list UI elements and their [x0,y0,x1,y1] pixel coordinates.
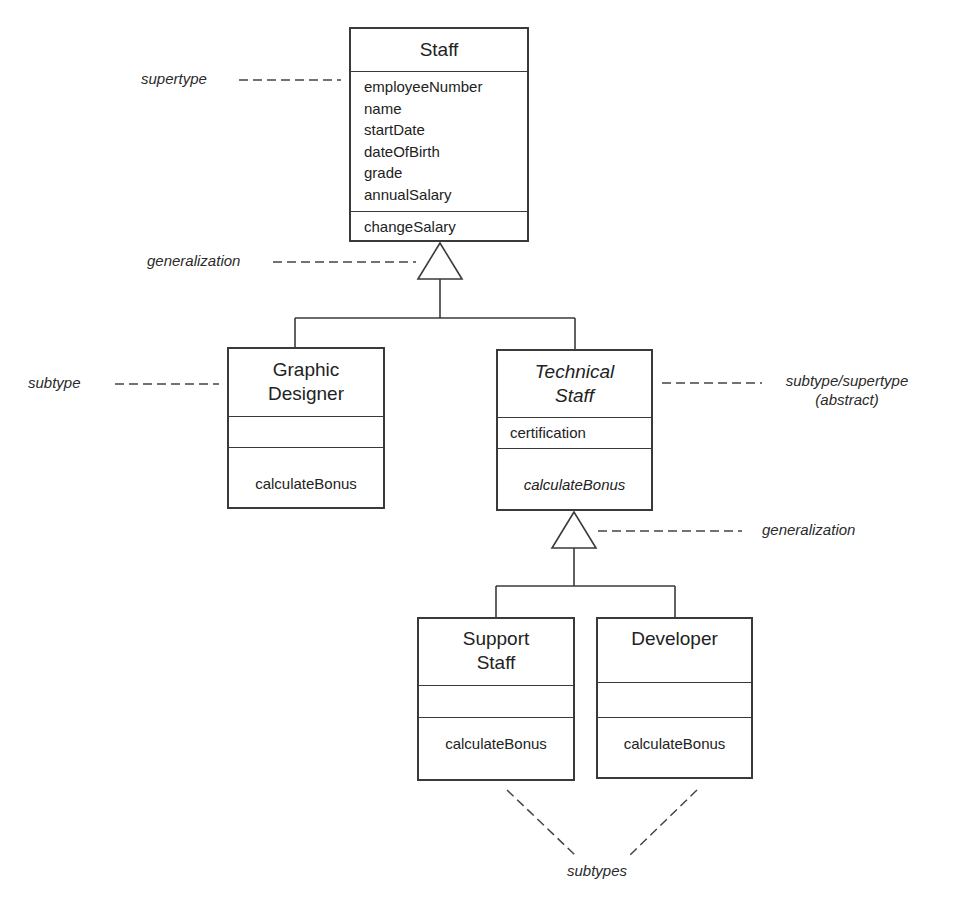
operation: calculateBonus [498,475,651,495]
class-support-staff: Support Staff calculateBonus [417,617,575,781]
class-staff-attributes: employeeNumber name startDate dateOfBirt… [351,71,527,211]
class-graphic-designer-name-compartment: Graphic Designer [229,349,383,416]
generalization-triangle-top [418,243,462,279]
attribute: annualSalary [351,184,527,206]
class-name: Developer [598,627,751,651]
class-developer-attributes [598,682,751,717]
class-graphic-designer-attributes [229,416,383,447]
class-support-staff-operations: calculateBonus [419,717,573,779]
class-staff-name-compartment: Staff [351,29,527,71]
annotation-subtype-supertype: subtype/supertype (abstract) [772,372,922,408]
attribute: startDate [351,119,527,141]
subtypes-leader-right [630,790,697,855]
class-technical-staff-operations: calculateBonus [498,448,651,509]
class-staff: Staff employeeNumber name startDate date… [349,27,529,242]
class-name-line2: Staff [419,651,573,675]
attribute: certification [498,423,651,443]
class-staff-operations: changeSalary [351,211,527,240]
subtypes-leader-left [507,790,575,855]
operation: calculateBonus [229,474,383,494]
class-graphic-designer-operations: calculateBonus [229,447,383,507]
attribute: grade [351,162,527,184]
annotation-subtype-supertype-line2: (abstract) [772,391,922,408]
annotation-subtype: subtype [28,374,81,391]
annotation-subtypes: subtypes [547,862,647,879]
class-technical-staff: Technical Staff certification calculateB… [496,349,653,511]
class-technical-staff-name-compartment: Technical Staff [498,351,651,417]
class-name-line1: Support [419,627,573,651]
annotation-generalization-bottom: generalization [762,521,855,538]
class-name-line1: Graphic [229,358,383,382]
attribute: name [351,98,527,120]
class-graphic-designer: Graphic Designer calculateBonus [227,347,385,509]
attribute: employeeNumber [351,76,527,98]
operation: calculateBonus [598,734,751,754]
class-name-line2: Staff [498,384,651,408]
class-staff-name: Staff [351,29,527,62]
class-name-line2: Designer [229,382,383,406]
annotation-subtype-supertype-line1: subtype/supertype [772,372,922,389]
operation: changeSalary [351,216,527,238]
attribute: dateOfBirth [351,141,527,163]
generalization-triangle-bottom [552,512,596,548]
annotation-generalization-top: generalization [147,252,240,269]
class-name-line1: Technical [498,360,651,384]
class-developer-operations: calculateBonus [598,717,751,777]
class-developer: Developer calculateBonus [596,617,753,779]
class-support-staff-attributes [419,685,573,717]
class-technical-staff-attributes: certification [498,417,651,448]
class-support-staff-name-compartment: Support Staff [419,619,573,685]
class-developer-name-compartment: Developer [598,619,751,682]
annotation-supertype: supertype [141,70,207,87]
operation: calculateBonus [419,734,573,754]
